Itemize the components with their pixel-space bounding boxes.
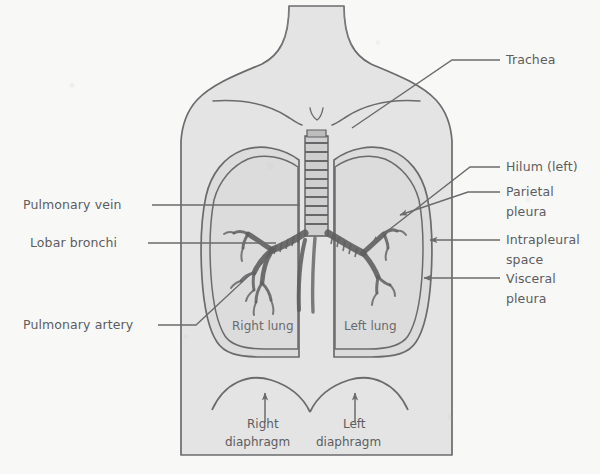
label-hilum-left: Hilum (left): [506, 159, 578, 174]
label-intrapleural-space-line1: Intrapleural: [506, 232, 580, 247]
figure-canvas: Pulmonary vein Lobar bronchi Pulmonary a…: [0, 0, 600, 474]
label-visceral-pleura-line2: pleura: [506, 291, 546, 306]
label-trachea: Trachea: [505, 52, 555, 67]
label-visceral-pleura-line1: Visceral: [506, 271, 556, 286]
label-right-lung: Right lung: [232, 319, 294, 333]
label-parietal-pleura-line1: Parietal: [506, 184, 554, 199]
label-pulmonary-artery: Pulmonary artery: [23, 317, 134, 332]
label-intrapleural-space-line2: space: [506, 252, 543, 267]
label-pulmonary-vein: Pulmonary vein: [23, 197, 122, 212]
label-left-lung: Left lung: [344, 319, 397, 333]
label-right-diaphragm-line2: diaphragm: [225, 435, 290, 449]
anatomy-diagram: Pulmonary vein Lobar bronchi Pulmonary a…: [0, 0, 600, 474]
label-lobar-bronchi: Lobar bronchi: [30, 235, 117, 250]
label-left-diaphragm-line1: Left: [343, 417, 366, 431]
label-left-diaphragm-line2: diaphragm: [316, 435, 381, 449]
label-right-diaphragm-line1: Right: [247, 417, 279, 431]
trachea-structure: [305, 130, 328, 236]
label-parietal-pleura-line2: pleura: [506, 204, 546, 219]
